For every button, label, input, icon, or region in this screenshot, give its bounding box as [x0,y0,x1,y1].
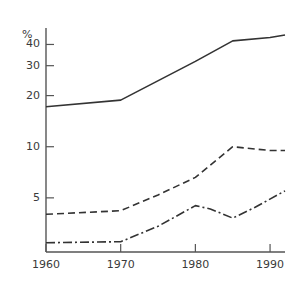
line-chart: % 510203040 1960197019801990 [0,0,299,283]
data-series-layer [46,35,285,243]
x-tick-label: 1960 [21,258,71,271]
x-tick-label: 1970 [96,258,146,271]
x-tick-label: 1990 [245,258,295,271]
x-axis-ticks [46,244,270,252]
y-tick-label: 20 [6,89,40,102]
y-tick-label: 10 [6,140,40,153]
y-tick-label: 5 [6,191,40,204]
x-tick-label: 1980 [170,258,220,271]
y-axis-ticks [46,44,54,197]
data-series-line [46,191,285,243]
data-series-line [46,147,285,215]
y-tick-label: 30 [6,59,40,72]
y-tick-label: 40 [6,37,40,50]
chart-plot-area [0,0,299,283]
data-series-line [46,35,285,107]
